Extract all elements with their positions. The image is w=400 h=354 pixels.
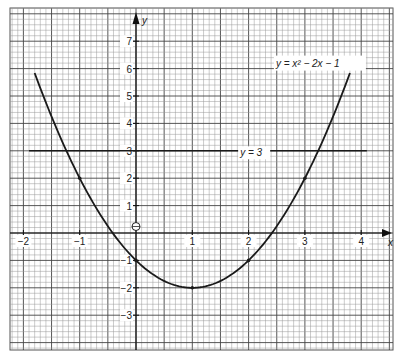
- y-axis-label: y: [141, 15, 148, 26]
- x-tick-label: −2: [18, 236, 30, 247]
- x-axis-label: x: [387, 237, 394, 248]
- x-tick-label: 2: [246, 236, 252, 247]
- x-tick-label: −1: [74, 236, 86, 247]
- y-tick-label: 7: [126, 36, 132, 47]
- x-tick-label: 3: [302, 236, 308, 247]
- line-label: y = 3: [239, 147, 262, 158]
- x-tick-label: 4: [358, 236, 364, 247]
- y-tick-label: 2: [126, 173, 132, 184]
- plotted-point: [191, 286, 195, 290]
- plotted-point: [134, 259, 138, 263]
- plotted-point: [78, 176, 82, 180]
- y-tick-label: 6: [126, 64, 132, 75]
- plotted-point: [247, 259, 251, 263]
- y-tick-label: 5: [126, 91, 132, 102]
- parabola-label: y = x² − 2x − 1: [275, 58, 340, 69]
- y-tick-label: 1: [126, 201, 132, 212]
- plotted-point: [303, 176, 307, 180]
- y-tick-label: 4: [126, 118, 132, 129]
- x-tick-label: 1: [190, 236, 196, 247]
- y-tick-label: −1: [121, 255, 133, 266]
- y-tick-label: −2: [121, 283, 133, 294]
- y-tick-label: −3: [121, 310, 133, 321]
- graph-paper-chart: xy −2−112347654321−1−2−3 y = x² − 2x − 1…: [0, 0, 400, 354]
